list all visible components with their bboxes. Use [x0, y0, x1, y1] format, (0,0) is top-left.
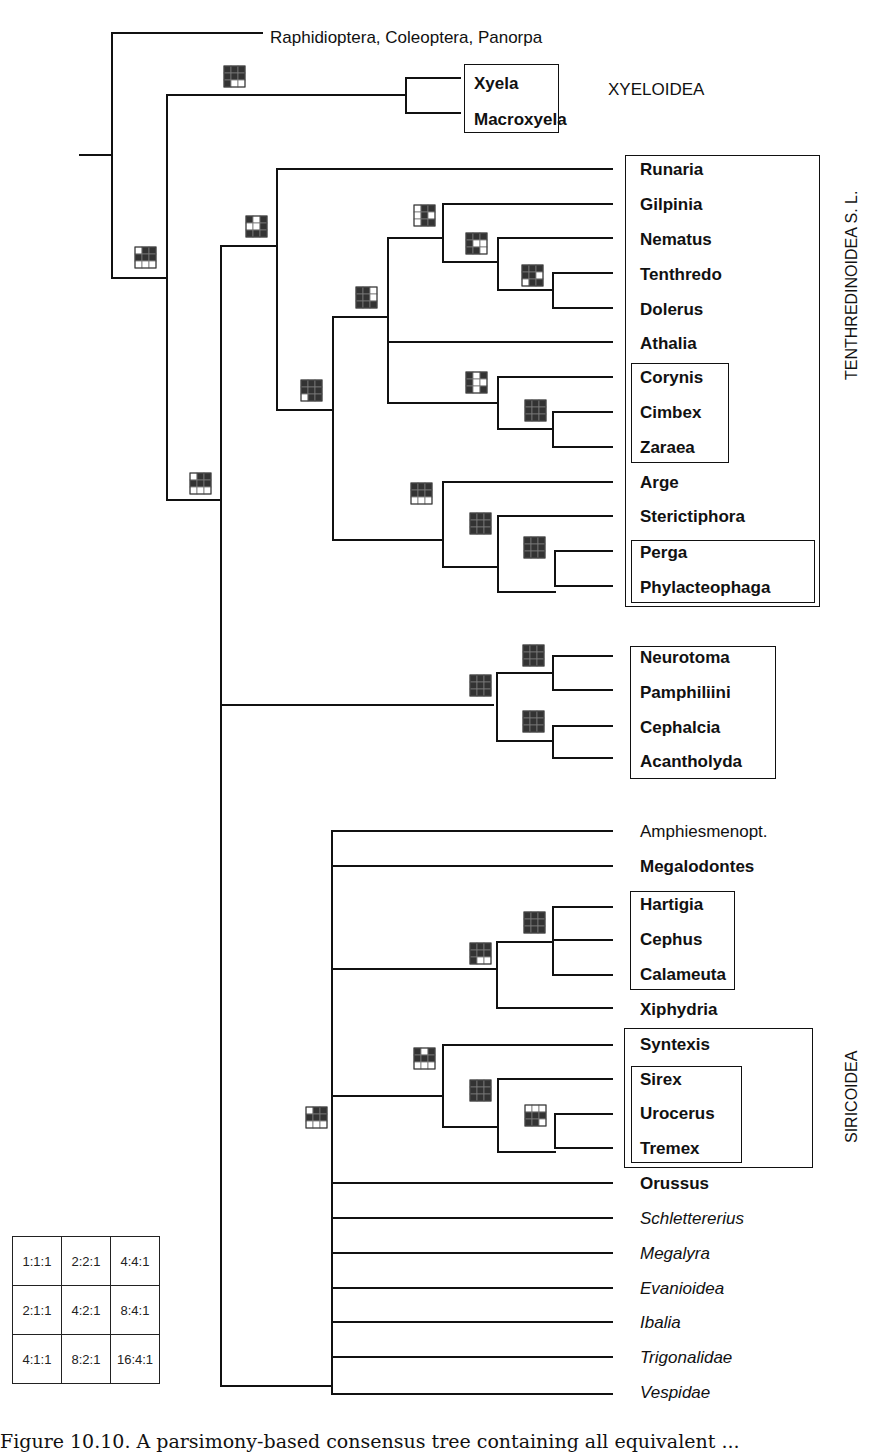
taxon-raphid: Raphidioptera, Coleoptera, Panorpa: [270, 28, 542, 48]
node-state-grid-icon: [411, 483, 432, 504]
taxon-megalodontes: Megalodontes: [640, 857, 754, 877]
taxon-cephus: Cephus: [640, 930, 702, 950]
node-state-grid-icon: [523, 711, 544, 732]
node-state-grid-icon: [470, 943, 491, 964]
node-state-grid-icon: [466, 372, 487, 393]
taxon-pamphiliini: Pamphiliini: [640, 683, 731, 703]
taxon-zaraea: Zaraea: [640, 438, 695, 458]
taxon-tenthredo: Tenthredo: [640, 265, 722, 285]
legend-cell: 4:2:1: [62, 1286, 111, 1335]
node-state-grid-icon: [522, 265, 543, 286]
taxon-orussus: Orussus: [640, 1174, 709, 1194]
node-state-grid-icon: [135, 247, 156, 268]
taxon-nematus: Nematus: [640, 230, 712, 250]
taxon-xyela: Xyela: [474, 74, 518, 94]
legend-cell: 4:1:1: [13, 1335, 62, 1384]
taxon-xiphydria: Xiphydria: [640, 1000, 717, 1020]
taxon-corynis: Corynis: [640, 368, 703, 388]
node-state-grid-icon: [525, 1105, 546, 1126]
taxon-calameuta: Calameuta: [640, 965, 726, 985]
taxon-phylacteophaga: Phylacteophaga: [640, 578, 770, 598]
taxon-hartigia: Hartigia: [640, 895, 703, 915]
node-state-grid-icon: [414, 1048, 435, 1069]
taxon-cimbex: Cimbex: [640, 403, 701, 423]
taxon-neurotoma: Neurotoma: [640, 648, 730, 668]
node-state-grid-icon: [301, 380, 322, 401]
taxon-runaria: Runaria: [640, 160, 703, 180]
taxon-acantholyda: Acantholyda: [640, 752, 742, 772]
taxon-dolerus: Dolerus: [640, 300, 703, 320]
taxon-evanioidea: Evanioidea: [640, 1279, 724, 1299]
node-state-grid-icon: [356, 287, 377, 308]
taxon-trigonalidae: Trigonalidae: [640, 1348, 732, 1368]
legend-cell: 8:4:1: [111, 1286, 160, 1335]
legend-cell: 4:4:1: [111, 1237, 160, 1286]
taxon-cephalcia: Cephalcia: [640, 718, 720, 738]
node-legend-grid: 1:1:1 2:2:1 4:4:1 2:1:1 4:2:1 8:4:1 4:1:…: [12, 1236, 160, 1384]
node-state-grid-icon: [224, 66, 245, 87]
taxon-sirex: Sirex: [640, 1070, 682, 1090]
taxon-urocerus: Urocerus: [640, 1104, 715, 1124]
node-state-grid-icon: [470, 675, 491, 696]
node-state-grid-icon: [524, 912, 545, 933]
taxon-vespidae: Vespidae: [640, 1383, 710, 1403]
legend-cell: 16:4:1: [111, 1335, 160, 1384]
node-state-grid-icon: [190, 473, 211, 494]
clade-label-siricoidea: SIRICOIDEA: [843, 1051, 861, 1143]
clade-label-tenthredinoidea: TENTHREDINOIDEA S. L.: [843, 191, 861, 380]
node-state-grid-icon: [246, 216, 267, 237]
taxon-megalyra: Megalyra: [640, 1244, 710, 1264]
node-state-grid-icon: [414, 205, 435, 226]
taxon-perga: Perga: [640, 543, 687, 563]
node-state-grid-icon: [306, 1107, 327, 1128]
node-state-grid-icon: [470, 1080, 491, 1101]
legend-cell: 1:1:1: [13, 1237, 62, 1286]
clade-label-xyeloidea: XYELOIDEA: [608, 80, 704, 100]
taxon-athalia: Athalia: [640, 334, 697, 354]
node-state-grid-icon: [523, 645, 544, 666]
taxon-arge: Arge: [640, 473, 679, 493]
taxon-sterictiphora: Sterictiphora: [640, 507, 745, 527]
legend-cell: 2:1:1: [13, 1286, 62, 1335]
legend-cell: 8:2:1: [62, 1335, 111, 1384]
taxon-ibalia: Ibalia: [640, 1313, 681, 1333]
taxon-tremex: Tremex: [640, 1139, 700, 1159]
node-state-grid-icon: [466, 233, 487, 254]
taxon-syntexis: Syntexis: [640, 1035, 710, 1055]
taxon-amphiesmenopt: Amphiesmenopt.: [640, 822, 768, 842]
node-state-grid-icon: [470, 513, 491, 534]
node-state-grid-icon: [524, 537, 545, 558]
taxon-gilpinia: Gilpinia: [640, 195, 702, 215]
figure-caption: Figure 10.10. A parsimony-based consensu…: [0, 1430, 740, 1452]
node-state-grid-icon: [525, 400, 546, 421]
taxon-schlettererius: Schlettererius: [640, 1209, 744, 1229]
taxon-macroxyela: Macroxyela: [474, 110, 567, 130]
legend-cell: 2:2:1: [62, 1237, 111, 1286]
